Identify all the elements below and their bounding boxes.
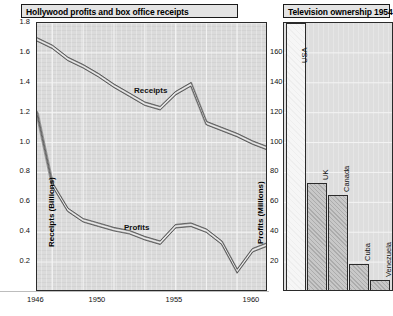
tv-plot-area: USAUKCanadaCubaVenezuela <box>283 22 393 291</box>
x-tick-3: 1960 <box>243 295 260 304</box>
x-tick-2: 1955 <box>166 295 183 304</box>
hollywood-plot-area: Receipts Profits <box>36 22 267 291</box>
bottom-strip-left <box>0 291 269 292</box>
bar-label-cuba: Cuba <box>363 243 372 261</box>
y-tick-left-0: 1.8 <box>2 17 30 26</box>
bar-cuba <box>349 264 369 291</box>
series-label-profits: Profits <box>124 223 149 232</box>
y-axis-right-title: Profits (Millions) <box>256 181 265 244</box>
y-tick-left-8: 0.2 <box>2 256 30 265</box>
bar-usa <box>286 23 306 291</box>
y-tick-left-6: 0.6 <box>2 196 30 205</box>
bar-uk <box>307 183 327 291</box>
y-axis-left-title: Receipts (Billions) <box>47 177 56 247</box>
bar-label-uk: UK <box>321 169 330 179</box>
bar-label-venezuela: Venezuela <box>384 242 393 277</box>
y-tick-left-2: 1.4 <box>2 77 30 86</box>
tv-chart-title: Television ownership 1954 <box>283 4 390 18</box>
bar-canada <box>328 195 348 291</box>
bar-label-canada: Canada <box>342 166 351 192</box>
hollywood-lines <box>37 23 267 291</box>
hollywood-chart-title: Hollywood profits and box office receipt… <box>21 4 238 18</box>
series-label-receipts: Receipts <box>134 86 167 95</box>
bar-venezuela <box>370 280 390 291</box>
bar-label-usa: USA <box>300 48 309 63</box>
y-tick-left-7: 0.4 <box>2 226 30 235</box>
y-tick-left-1: 1.6 <box>2 47 30 56</box>
y-tick-left-4: 1.0 <box>2 137 30 146</box>
x-tick-0: 1946 <box>27 295 44 304</box>
y-tick-left-3: 1.2 <box>2 107 30 116</box>
x-tick-1: 1950 <box>89 295 106 304</box>
y-tick-left-5: 0.8 <box>2 166 30 175</box>
